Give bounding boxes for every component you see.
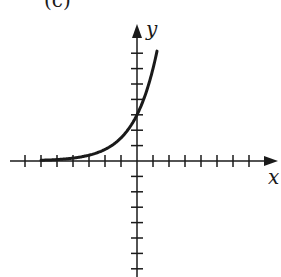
x-axis-label: x [268,165,279,189]
y-axis-label: y [145,17,158,41]
exponential-curve [41,51,157,160]
y-axis-arrow-icon [132,24,142,38]
y-axis [131,24,143,277]
panel-label: (c) [44,0,71,12]
exponential-graph: (c) x y [0,0,281,277]
